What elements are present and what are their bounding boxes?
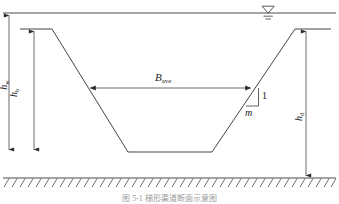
right-side-slope-line bbox=[212, 29, 295, 152]
label-water-depth: hw bbox=[0, 80, 9, 89]
label-hw-base: h bbox=[0, 85, 9, 90]
label-bave-sub: ave bbox=[162, 77, 171, 84]
ground-hatching bbox=[4, 179, 336, 188]
figure-caption: 图 5-1 梯形渠道断面示意图 bbox=[0, 192, 339, 203]
channel-outline bbox=[20, 29, 331, 152]
diagram-canvas bbox=[0, 0, 339, 204]
left-side-slope-line bbox=[52, 29, 128, 152]
label-hw-sub: w bbox=[3, 80, 10, 84]
channel-cross-section-figure: hw hb hd Bave 1 m 图 5-1 梯形渠道断面示意图 bbox=[0, 0, 339, 204]
label-channel-depth: hd bbox=[294, 113, 304, 121]
label-bave-base: B bbox=[155, 71, 162, 83]
slope-ratio-triangle bbox=[246, 88, 258, 106]
label-hd-base: h bbox=[293, 116, 304, 121]
label-bank-height: hb bbox=[9, 89, 19, 97]
label-hb-sub: b bbox=[13, 89, 20, 92]
label-slope-horizontal: m bbox=[245, 108, 252, 118]
label-hb-base: h bbox=[8, 92, 19, 97]
label-slope-vertical: 1 bbox=[262, 91, 267, 101]
ground-line bbox=[3, 178, 336, 187]
label-average-width: Bave bbox=[155, 72, 171, 83]
label-hd-sub: d bbox=[298, 113, 305, 116]
